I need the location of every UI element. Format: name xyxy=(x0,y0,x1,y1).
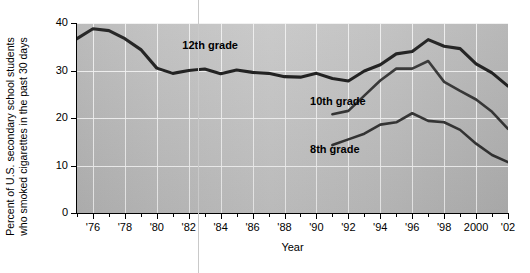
x-tick-mark-1994 xyxy=(380,214,381,219)
x-tick-minor-1997 xyxy=(428,214,429,217)
x-tick-mark-1976 xyxy=(93,214,94,219)
y-tick-label-20: 20 xyxy=(56,111,68,123)
x-tick-mark-1986 xyxy=(253,214,254,219)
y-axis-title-line-1: Percent of U.S. secondary school student… xyxy=(4,37,17,235)
y-tick-label-10: 10 xyxy=(56,159,68,171)
series-label-8th-grade: 8th grade xyxy=(310,143,360,155)
x-axis-title: Year xyxy=(77,241,508,253)
x-tick-minor-1985 xyxy=(237,214,238,217)
x-tick-mark-2000 xyxy=(476,214,477,219)
x-tick-mark-1982 xyxy=(189,214,190,219)
x-tick-mark-1980 xyxy=(157,214,158,219)
x-tick-mark-1992 xyxy=(348,214,349,219)
x-tick-label-1984: '84 xyxy=(213,221,227,233)
x-tick-mark-1998 xyxy=(444,214,445,219)
y-axis-title-line-2: who smoked cigarettes in the past 30 day… xyxy=(17,37,30,235)
x-tick-minor-1979 xyxy=(141,214,142,217)
x-tick-mark-1988 xyxy=(285,214,286,219)
series-label-12th-grade: 12th grade xyxy=(182,39,238,51)
x-tick-label-2000: 2000 xyxy=(464,221,488,233)
x-tick-label-1988: '88 xyxy=(277,221,291,233)
y-tick-label-30: 30 xyxy=(56,64,68,76)
y-tick-label-40: 40 xyxy=(56,16,68,28)
x-tick-minor-1987 xyxy=(269,214,270,217)
x-tick-minor-1977 xyxy=(109,214,110,217)
x-tick-minor-1989 xyxy=(300,214,301,217)
x-tick-minor-1999 xyxy=(460,214,461,217)
x-tick-label-1986: '86 xyxy=(245,221,259,233)
x-tick-minor-1981 xyxy=(173,214,174,217)
x-tick-label-1996: '96 xyxy=(405,221,419,233)
x-tick-mark-1978 xyxy=(125,214,126,219)
x-tick-mark-1984 xyxy=(221,214,222,219)
x-tick-minor-1993 xyxy=(364,214,365,217)
x-tick-minor-1975 xyxy=(77,214,78,217)
y-axis-title: Percent of U.S. secondary school student… xyxy=(0,0,34,273)
x-tick-minor-1995 xyxy=(396,214,397,217)
x-tick-mark-2002 xyxy=(508,214,509,219)
x-tick-minor-2001 xyxy=(492,214,493,217)
series-line-12th-grade xyxy=(77,29,508,86)
x-tick-label-1980: '80 xyxy=(150,221,164,233)
x-tick-mark-1990 xyxy=(316,214,317,219)
x-tick-label-1978: '78 xyxy=(118,221,132,233)
x-tick-label-1990: '90 xyxy=(309,221,323,233)
x-tick-label-1998: '98 xyxy=(437,221,451,233)
x-tick-minor-1991 xyxy=(332,214,333,217)
y-tick-label-0: 0 xyxy=(62,206,68,218)
x-tick-minor-1983 xyxy=(205,214,206,217)
cigarette-use-line-chart: Percent of U.S. secondary school student… xyxy=(0,0,530,273)
x-tick-label-1992: '92 xyxy=(341,221,355,233)
x-tick-label-1994: '94 xyxy=(373,221,387,233)
plot-area: 12th grade10th grade8th grade xyxy=(77,23,508,213)
x-tick-label-2002: '02 xyxy=(501,221,515,233)
x-tick-mark-1996 xyxy=(412,214,413,219)
x-tick-label-1976: '76 xyxy=(86,221,100,233)
x-tick-label-1982: '82 xyxy=(182,221,196,233)
series-lines xyxy=(77,23,508,213)
series-label-10th-grade: 10th grade xyxy=(310,95,366,107)
